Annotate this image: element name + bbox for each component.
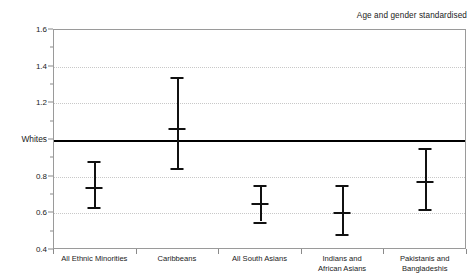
point-estimate-marker [251,203,268,205]
y-axis-minor-tick [50,120,53,121]
x-axis-category-label: Pakistanis and Bangladeshis [400,254,449,273]
error-bar-line [177,77,179,169]
gridline [54,103,465,104]
y-axis-tick-mark [48,65,53,66]
x-axis-category-label: Caribbeans [157,254,196,264]
error-bar-line [425,148,427,209]
error-bar-cap-lower [253,222,266,224]
error-bar-line [342,185,344,235]
y-axis-tick-mark [48,29,53,30]
x-axis-tick [301,249,302,254]
y-axis-tick-label: 0.8 [36,171,47,180]
error-bar-cap-lower [88,207,101,209]
chart-annotation: Age and gender standardised [357,11,467,20]
y-axis-tick-label: 1.4 [36,61,47,70]
reference-line-whites [54,140,465,142]
y-axis-tick-label: 0.4 [36,245,47,254]
error-bar-cap-lower [336,234,349,236]
y-axis-tick-label: 1.6 [36,25,47,34]
x-axis-tick [218,249,219,254]
x-axis-tick [136,249,137,254]
y-axis-minor-tick [50,194,53,195]
y-axis-minor-tick [50,230,53,231]
gridline [54,177,465,178]
x-axis-category-label: Indians and African Asians [318,254,366,273]
point-estimate-marker [86,187,103,189]
x-axis-category-label: All Ethnic Minorities [61,254,127,264]
error-bar-cap-upper [88,161,101,163]
error-bar-cap-upper [336,185,349,187]
error-bar-line [94,161,96,207]
x-axis-category-label: All South Asians [232,254,287,264]
y-axis-tick-label: 1.2 [36,98,47,107]
x-axis-end-tick [466,249,467,254]
point-estimate-marker [416,181,433,183]
error-bar-cap-upper [253,185,266,187]
y-axis-tick-mark [48,139,53,140]
error-bar-cap-upper [418,148,431,150]
y-axis-tick-mark [48,212,53,213]
y-axis-tick-label: 0.6 [36,208,47,217]
y-axis-tick-mark [48,175,53,176]
point-estimate-marker [168,128,185,130]
y-axis-minor-tick [50,84,53,85]
x-axis-tick [383,249,384,254]
error-bar-cap-lower [170,168,183,170]
error-bar-cap-upper [170,77,183,79]
x-axis-end-tick [53,249,54,254]
chart-figure: Age and gender standardised 0.40.60.8Whi… [0,0,476,280]
error-bar-cap-lower [418,209,431,211]
point-estimate-marker [334,212,351,214]
y-axis-tick-mark [48,102,53,103]
y-axis-minor-tick [50,157,53,158]
gridline [54,67,465,68]
y-axis-minor-tick [50,47,53,48]
y-axis-tick-label: Whites [21,134,47,144]
